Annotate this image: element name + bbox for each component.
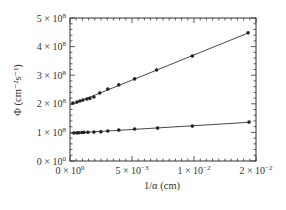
data-point bbox=[92, 130, 96, 134]
data-point bbox=[106, 129, 110, 133]
series-upper bbox=[71, 31, 250, 105]
series-lower bbox=[71, 120, 251, 134]
y-tick-labels: 0 × 1001 × 1082 × 1083 × 1084 × 1085 × 1… bbox=[37, 12, 67, 167]
data-point bbox=[117, 83, 121, 87]
data-point bbox=[156, 126, 160, 130]
y-tick-label: 4 × 108 bbox=[37, 40, 67, 52]
plot-frame bbox=[70, 18, 256, 161]
data-point bbox=[81, 98, 85, 102]
fit-line bbox=[71, 33, 248, 105]
data-point bbox=[191, 54, 195, 58]
y-tick-label: 3 × 108 bbox=[37, 69, 67, 81]
x-tick-label: 2 × 10−2 bbox=[239, 164, 273, 176]
y-tick-label: 5 × 108 bbox=[37, 12, 67, 24]
x-tick-label: 1 × 10−2 bbox=[177, 164, 211, 176]
data-point bbox=[106, 87, 110, 91]
data-point bbox=[246, 31, 250, 35]
data-point bbox=[117, 128, 121, 132]
data-point bbox=[71, 101, 75, 105]
data-point bbox=[133, 77, 137, 81]
x-tick-labels: 0 × 1005 × 10−31 × 10−22 × 10−2 bbox=[55, 164, 273, 176]
axis-ticks bbox=[70, 18, 256, 161]
plot-area-border bbox=[70, 18, 256, 161]
x-tick-label: 5 × 10−3 bbox=[115, 164, 149, 176]
data-point bbox=[133, 127, 137, 131]
data-point bbox=[155, 68, 159, 72]
data-point bbox=[86, 130, 90, 134]
data-point bbox=[82, 131, 86, 135]
data-point bbox=[92, 95, 96, 99]
y-tick-label: 2 × 108 bbox=[37, 97, 67, 109]
chart: 0 × 1005 × 10−31 × 10−22 × 10−2 0 × 1001… bbox=[0, 0, 286, 210]
data-point bbox=[99, 130, 103, 134]
y-tick-label: 0 × 100 bbox=[37, 155, 67, 167]
data-point bbox=[85, 97, 89, 101]
y-axis-title: Φ (cm⁻²s⁻¹) bbox=[12, 64, 24, 116]
fit-line bbox=[71, 122, 249, 133]
data-point bbox=[191, 124, 195, 128]
data-point bbox=[88, 97, 92, 101]
data-point bbox=[98, 91, 102, 95]
data-point bbox=[247, 120, 251, 124]
y-tick-label: 1 × 108 bbox=[37, 126, 67, 138]
data-series bbox=[71, 31, 251, 135]
x-axis-title: 1/α (cm) bbox=[144, 180, 181, 192]
